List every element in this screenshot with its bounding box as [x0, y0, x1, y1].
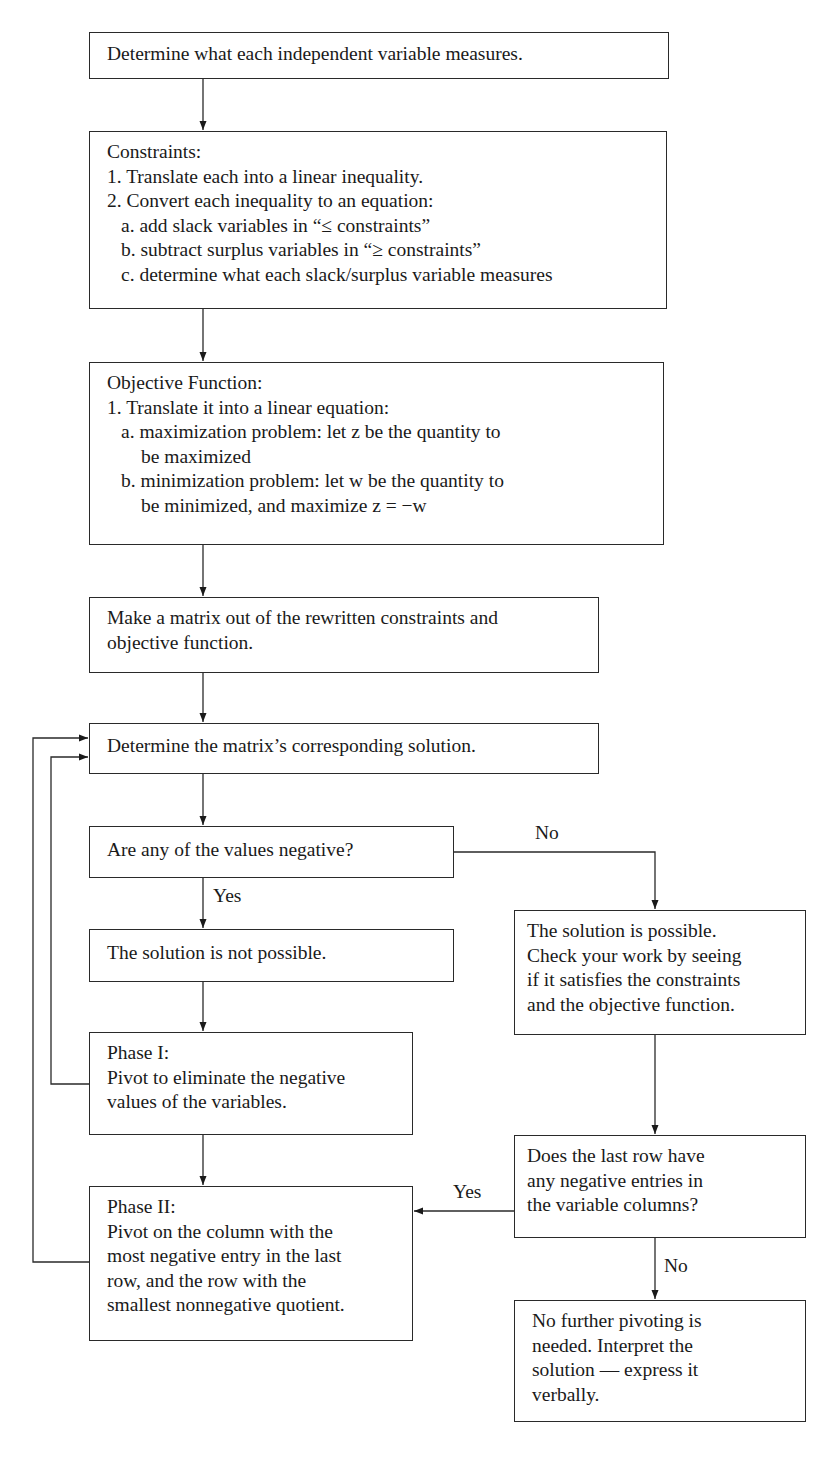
- node-text: Check your work by seeing: [527, 944, 793, 969]
- edge-label-yes: Yes: [213, 885, 241, 907]
- result-interpret-solution: No further pivoting is needed. Interpret…: [514, 1300, 806, 1422]
- node-text: solution — express it: [532, 1358, 793, 1383]
- node-text: smallest nonnegative quotient.: [107, 1293, 400, 1318]
- result-possible-check: The solution is possible. Check your wor…: [514, 910, 806, 1035]
- node-text: The solution is possible.: [527, 919, 793, 944]
- node-text: if it satisfies the constraints: [527, 968, 793, 993]
- node-text: be minimized, and maximize z = −w: [107, 494, 651, 519]
- node-text: b. subtract surplus variables in “≥ cons…: [107, 238, 654, 263]
- step-determine-solution: Determine the matrix’s corresponding sol…: [89, 723, 599, 774]
- node-text: Are any of the values negative?: [107, 838, 441, 863]
- node-text: row, and the row with the: [107, 1269, 400, 1294]
- node-text: a. add slack variables in “≤ constraints…: [107, 214, 654, 239]
- edge-label-no: No: [664, 1255, 688, 1277]
- node-text: Pivot on the column with the: [107, 1220, 400, 1245]
- step-identify-variables: Determine what each independent variable…: [89, 32, 669, 79]
- node-text: c. determine what each slack/surplus var…: [107, 263, 654, 288]
- edge-label-no: No: [535, 822, 559, 844]
- node-text: be maximized: [107, 445, 651, 470]
- decision-negative-values: Are any of the values negative?: [89, 826, 454, 878]
- node-text: the variable columns?: [527, 1193, 793, 1218]
- node-text: b. minimization problem: let w be the qu…: [107, 469, 651, 494]
- step-phase-one: Phase I: Pivot to eliminate the negative…: [89, 1032, 413, 1135]
- node-text: Determine the matrix’s corresponding sol…: [107, 734, 586, 759]
- result-not-possible: The solution is not possible.: [89, 929, 454, 982]
- node-text: Make a matrix out of the rewritten const…: [107, 606, 586, 631]
- node-text: values of the variables.: [107, 1090, 400, 1115]
- node-text: The solution is not possible.: [107, 941, 441, 966]
- node-heading: Phase I:: [107, 1041, 400, 1066]
- node-heading: Constraints:: [107, 140, 654, 165]
- step-make-matrix: Make a matrix out of the rewritten const…: [89, 597, 599, 673]
- node-text: No further pivoting is: [532, 1309, 793, 1334]
- decision-last-row-negative: Does the last row have any negative entr…: [514, 1135, 806, 1238]
- node-heading: Phase II:: [107, 1195, 400, 1220]
- node-text: verbally.: [532, 1383, 793, 1408]
- node-text: any negative entries in: [527, 1169, 793, 1194]
- node-text: objective function.: [107, 631, 586, 656]
- node-text: Determine what each independent variable…: [107, 42, 656, 67]
- step-phase-two: Phase II: Pivot on the column with the m…: [89, 1186, 413, 1341]
- node-text: a. maximization problem: let z be the qu…: [107, 420, 651, 445]
- node-text: and the objective function.: [527, 993, 793, 1018]
- node-text: 2. Convert each inequality to an equatio…: [107, 189, 654, 214]
- edge-label-yes: Yes: [453, 1181, 481, 1203]
- node-text: most negative entry in the last: [107, 1244, 400, 1269]
- step-constraints: Constraints: 1. Translate each into a li…: [89, 131, 667, 309]
- node-text: 1. Translate it into a linear equation:: [107, 396, 651, 421]
- node-text: Does the last row have: [527, 1144, 793, 1169]
- node-text: Pivot to eliminate the negative: [107, 1066, 400, 1091]
- node-heading: Objective Function:: [107, 371, 651, 396]
- step-objective-function: Objective Function: 1. Translate it into…: [89, 362, 664, 545]
- node-text: needed. Interpret the: [532, 1334, 793, 1359]
- node-text: 1. Translate each into a linear inequali…: [107, 165, 654, 190]
